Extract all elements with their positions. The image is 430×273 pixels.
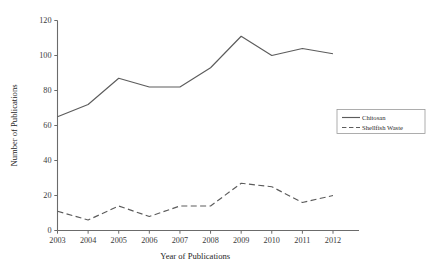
y-tick-label: 60	[43, 121, 51, 130]
x-axis-ticks: 2003200420052006200720082009201020112012	[49, 231, 341, 246]
x-tick-label: 2003	[49, 236, 65, 245]
x-axis: 2003200420052006200720082009201020112012	[49, 231, 359, 246]
line-chart: 020406080100120 200320042005200620072008…	[0, 0, 430, 273]
x-tick-label: 2009	[233, 236, 249, 245]
series-line-shellfish-waste	[58, 183, 334, 220]
x-axis-title: Year of Publications	[160, 251, 230, 261]
y-tick-label: 40	[43, 156, 51, 165]
series-group	[58, 36, 334, 220]
x-tick-label: 2010	[264, 236, 280, 245]
y-tick-label: 120	[39, 16, 51, 25]
y-axis: 020406080100120	[39, 16, 57, 235]
x-tick-label: 2012	[325, 236, 341, 245]
y-axis-ticks: 020406080100120	[39, 16, 57, 235]
x-tick-label: 2008	[202, 236, 218, 245]
y-tick-label: 100	[39, 51, 51, 60]
x-tick-label: 2005	[111, 236, 127, 245]
x-tick-label: 2011	[294, 236, 310, 245]
y-axis-title: Number of Publications	[9, 84, 19, 167]
legend-label-shellfish-waste: Shellfish Waste	[362, 124, 403, 131]
x-tick-label: 2006	[141, 236, 157, 245]
series-line-chitosan	[58, 36, 334, 117]
chart-legend: ChitosanShellfish Waste	[337, 110, 425, 134]
chart-container: 020406080100120 200320042005200620072008…	[0, 0, 430, 273]
y-tick-label: 20	[43, 191, 51, 200]
y-tick-label: 80	[43, 86, 51, 95]
x-tick-label: 2004	[80, 236, 96, 245]
x-tick-label: 2007	[172, 236, 188, 245]
legend-label-chitosan: Chitosan	[362, 114, 386, 121]
y-tick-label: 0	[47, 226, 51, 235]
